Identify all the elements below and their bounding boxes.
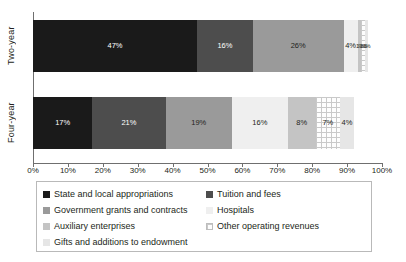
- x-axis-tick-label: 0%: [27, 166, 39, 175]
- stacked-bar-chart: Two-year Four-year 47%16%26%4%1%1%1% 17%…: [0, 0, 406, 262]
- legend-swatch-icon: [43, 191, 50, 198]
- segment-value-label: 4%: [342, 119, 353, 127]
- bar-segment: 19%: [166, 97, 232, 149]
- x-axis-tick-labels: 0%10%20%30%40%50%60%70%80%90%100%: [0, 166, 406, 180]
- legend-item[interactable]: Other operating revenues: [206, 218, 369, 234]
- legend-item[interactable]: Auxiliary enterprises: [43, 218, 206, 234]
- x-axis-tick-label: 80%: [304, 166, 320, 175]
- x-axis-tick-label: 20%: [95, 166, 111, 175]
- legend-item[interactable]: Government grants and contracts: [43, 202, 206, 218]
- segment-value-label: 16%: [252, 119, 267, 127]
- segment-value-label: 17%: [55, 119, 70, 127]
- legend-item-label: Other operating revenues: [217, 221, 319, 231]
- bar-segment: 17%: [33, 97, 92, 149]
- segment-value-label: 19%: [191, 119, 206, 127]
- legend-item[interactable]: Hospitals: [206, 202, 369, 218]
- legend-swatch-icon: [43, 207, 50, 214]
- bar-segment: 26%: [253, 20, 344, 72]
- legend-item-label: Gifts and additions to endowment: [54, 237, 188, 247]
- x-axis-tick-label: 30%: [130, 166, 146, 175]
- x-axis-tick-label: 10%: [60, 166, 76, 175]
- legend-swatch-icon: [206, 191, 213, 198]
- bar-segment: 1%: [365, 20, 368, 72]
- bar-two-year: 47%16%26%4%1%1%1%: [33, 20, 368, 72]
- plot-area: 47%16%26%4%1%1%1% 17%21%19%16%8%7%4%: [33, 12, 382, 164]
- legend-swatch-icon: [206, 207, 213, 214]
- segment-value-label: 7%: [322, 119, 333, 127]
- bar-segment: 47%: [33, 20, 197, 72]
- segment-value-label: 16%: [217, 42, 232, 50]
- segment-value-label: 47%: [108, 42, 123, 50]
- bar-segment: 21%: [92, 97, 165, 149]
- segment-value-label: 4%: [345, 42, 356, 50]
- legend-swatch-icon: [206, 223, 213, 230]
- segment-value-label: 1%: [363, 43, 370, 49]
- legend-item[interactable]: State and local appropriations: [43, 186, 206, 202]
- segment-value-label: 26%: [291, 42, 306, 50]
- segment-value-label: 8%: [296, 119, 307, 127]
- bar-segment: 4%: [340, 97, 354, 149]
- legend-item[interactable]: Tuition and fees: [206, 186, 369, 202]
- x-axis-tick-label: 60%: [234, 166, 250, 175]
- category-label-four-year: Four-year: [6, 97, 20, 149]
- legend-item[interactable]: Gifts and additions to endowment: [43, 234, 206, 250]
- bar-four-year: 17%21%19%16%8%7%4%: [33, 97, 354, 149]
- legend-item-label: Government grants and contracts: [54, 205, 188, 215]
- legend-swatch-icon: [43, 239, 50, 246]
- bar-segment: 16%: [232, 97, 288, 149]
- legend-item-label: Hospitals: [217, 205, 254, 215]
- bar-segment: 8%: [288, 97, 316, 149]
- x-axis-tick-label: 100%: [372, 166, 392, 175]
- legend-item-label: Tuition and fees: [217, 189, 281, 199]
- x-axis-tick-label: 50%: [199, 166, 215, 175]
- legend-item-label: State and local appropriations: [54, 189, 173, 199]
- x-axis-tick-label: 70%: [269, 166, 285, 175]
- category-label-two-year: Two-year: [6, 20, 20, 72]
- bar-segment: 16%: [197, 20, 253, 72]
- legend-swatch-icon: [43, 223, 50, 230]
- x-axis-tick-label: 40%: [165, 166, 181, 175]
- legend-item-label: Auxiliary enterprises: [54, 221, 135, 231]
- segment-value-label: 21%: [121, 119, 136, 127]
- bar-segment: 7%: [316, 97, 340, 149]
- chart-legend: State and local appropriationsTuition an…: [36, 181, 372, 252]
- x-axis-tick-label: 90%: [339, 166, 355, 175]
